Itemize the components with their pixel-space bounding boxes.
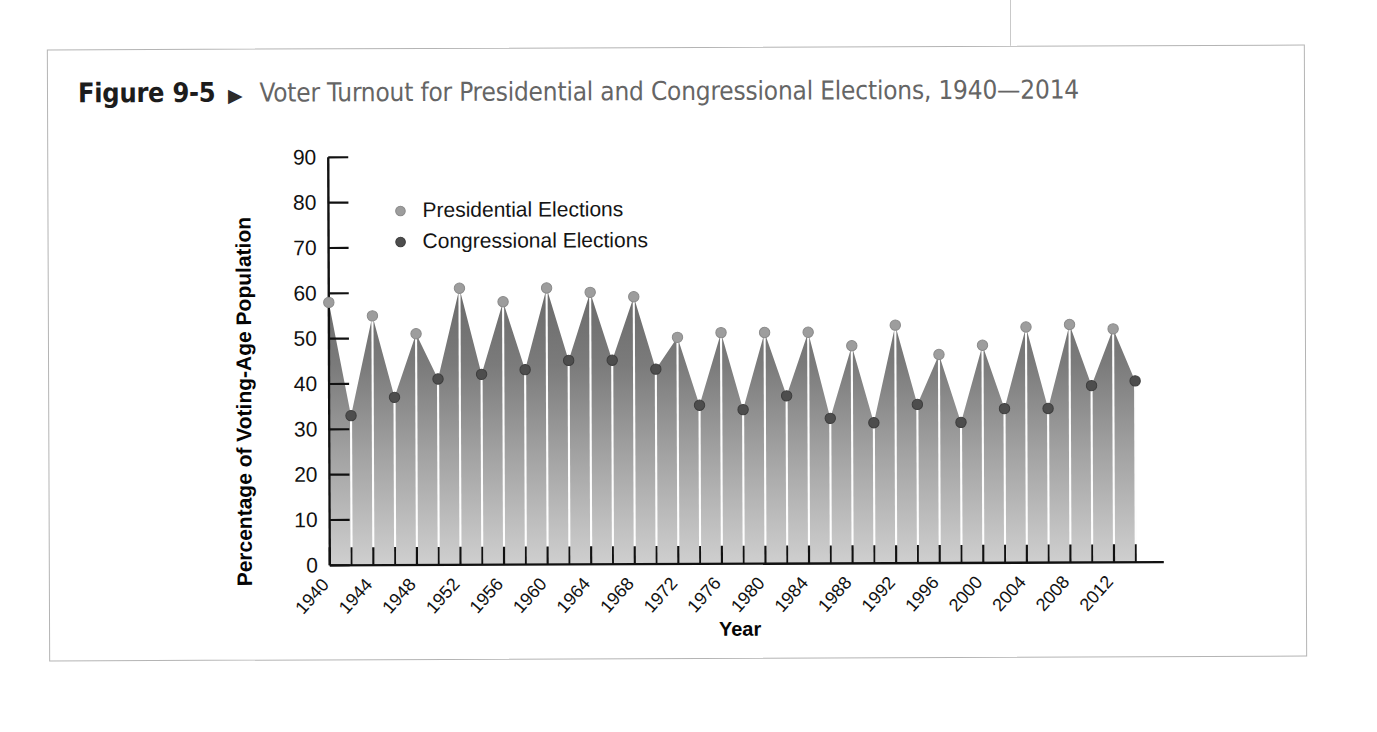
dropline (395, 397, 396, 565)
legend-label: Congressional Elections (423, 228, 648, 252)
data-point-marker (454, 283, 464, 293)
data-point-marker (912, 399, 922, 409)
x-axis-title: Year (719, 618, 762, 640)
data-point-marker (1064, 319, 1074, 329)
data-point-marker (716, 327, 726, 337)
x-tick-label: 1972 (640, 573, 682, 616)
data-point-marker (367, 311, 377, 321)
data-point-marker (607, 355, 617, 365)
figure-container: Figure 9-5 ▶ Voter Turnout for President… (47, 45, 1307, 662)
data-point-marker (759, 327, 769, 337)
data-point-marker (1108, 324, 1118, 334)
legend-marker-congressional (396, 237, 406, 247)
data-point-marker (1130, 376, 1140, 386)
x-tick-label: 2004 (988, 572, 1030, 615)
x-tick-label: 1996 (901, 572, 943, 615)
y-tick-label: 60 (293, 281, 316, 304)
dropline (1070, 324, 1071, 562)
data-point-marker (672, 332, 682, 342)
dropline (438, 379, 439, 565)
data-point-marker (498, 297, 508, 307)
dropline (830, 418, 831, 563)
x-tick-label: 1952 (422, 574, 464, 617)
y-tick-label: 40 (294, 372, 317, 395)
y-tick-label: 80 (293, 191, 316, 214)
data-point-marker (520, 364, 530, 374)
y-axis-title: Percentage of Voting-Age Population (231, 217, 255, 587)
dropline (351, 416, 352, 566)
x-tick-label: 1968 (596, 574, 638, 617)
dropline (852, 346, 853, 564)
data-point-marker (651, 364, 661, 374)
dropline (1092, 386, 1093, 563)
dropline (700, 405, 701, 564)
dropline (743, 410, 744, 564)
data-point-marker (999, 403, 1009, 413)
dropline (547, 288, 548, 565)
legend-label: Presidential Elections (422, 197, 623, 221)
data-point-marker (476, 369, 486, 379)
data-point-marker (541, 283, 551, 293)
data-point-marker (1086, 380, 1096, 390)
x-tick-label: 2008 (1032, 572, 1074, 615)
dropline (525, 370, 526, 565)
y-tick-label: 0 (306, 553, 318, 576)
x-tick-label: 1940 (291, 575, 333, 618)
data-point-marker (738, 404, 748, 414)
dropline (808, 332, 809, 563)
chart-area: 0102030405060708090 19401944194819521956… (48, 46, 1308, 663)
dropline (895, 325, 896, 563)
data-point-marker (847, 341, 857, 351)
legend-marker-presidential (396, 206, 406, 216)
dropline (634, 297, 635, 564)
data-point-marker (956, 417, 966, 427)
y-axis-line (328, 157, 330, 565)
data-point-marker (629, 291, 639, 301)
dropline (787, 396, 788, 564)
y-tick-label: 70 (293, 236, 316, 259)
y-tick-label: 50 (294, 327, 317, 350)
dropline (503, 302, 504, 565)
area-fill (329, 286, 1136, 566)
dropline (590, 292, 591, 564)
data-point-marker (433, 374, 443, 384)
x-tick-label: 1980 (727, 573, 769, 616)
turnout-area-polygon (329, 286, 1136, 566)
dropline (416, 334, 417, 565)
x-tick-label: 1988 (814, 573, 856, 616)
dropline (1026, 327, 1027, 563)
data-point-marker (411, 329, 421, 339)
data-point-marker (934, 349, 944, 359)
data-point-marker (825, 413, 835, 423)
data-point-marker (890, 320, 900, 330)
data-point-marker (781, 391, 791, 401)
dropline (765, 332, 766, 563)
dropline (1135, 381, 1136, 562)
data-point-marker (869, 417, 879, 427)
dropline (656, 369, 657, 564)
y-tick-label: 30 (294, 417, 317, 440)
dropline (939, 354, 940, 563)
x-tick-label: 1992 (858, 572, 900, 615)
data-point-marker (563, 355, 573, 365)
dropline (677, 337, 678, 564)
dropline (874, 423, 875, 564)
data-point-marker (324, 297, 334, 307)
dropline (961, 422, 962, 563)
x-tick-label: 1960 (509, 574, 551, 617)
data-point-marker (585, 287, 595, 297)
dropline (917, 404, 918, 563)
dropline (721, 333, 722, 564)
voter-turnout-area-chart: 0102030405060708090 19401944194819521956… (48, 46, 1308, 663)
data-point-marker (1021, 322, 1031, 332)
dropline (372, 316, 373, 565)
x-tick-label: 1964 (553, 574, 595, 617)
data-point-marker (389, 392, 399, 402)
dropline (1048, 408, 1049, 562)
data-point-marker (803, 327, 813, 337)
chart-legend: Presidential ElectionsCongressional Elec… (396, 197, 648, 252)
data-point-marker (346, 410, 356, 420)
dropline (1113, 329, 1114, 562)
y-tick-label: 90 (293, 145, 316, 168)
x-tick-label: 1956 (466, 574, 508, 617)
